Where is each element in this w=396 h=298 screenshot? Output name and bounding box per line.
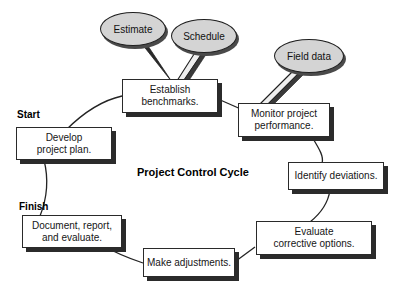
node-establish-benchmarks-label: Establish benchmarks. — [135, 84, 204, 108]
node-develop-project-plan-line1: Develop — [34, 132, 94, 144]
node-evaluate-corrective-options-line1: Evaluate — [270, 226, 357, 238]
node-evaluate-corrective-options-label: Evaluate corrective options. — [267, 226, 360, 250]
bubble-schedule-label: Schedule — [183, 31, 225, 42]
node-evaluate-corrective-options[interactable]: Evaluate corrective options. — [256, 221, 372, 255]
node-monitor-project-performance[interactable]: Monitor project performance. — [238, 103, 330, 137]
node-monitor-project-performance-label: Monitor project performance. — [245, 108, 323, 132]
node-document-report-evaluate-line2: and evaluate. — [29, 232, 115, 244]
node-establish-benchmarks[interactable]: Establish benchmarks. — [122, 79, 218, 113]
node-develop-project-plan[interactable]: Develop project plan. — [16, 127, 112, 160]
connector-develop-to-establish — [66, 96, 122, 130]
node-make-adjustments-label: Make adjustments. — [144, 257, 234, 269]
node-monitor-project-performance-line2: performance. — [248, 120, 320, 132]
node-evaluate-corrective-options-line2: corrective options. — [270, 238, 357, 250]
bubble-schedule[interactable]: Schedule — [171, 19, 237, 53]
finish-label: Finish — [19, 201, 48, 212]
node-document-report-evaluate-line1: Document, report, — [29, 220, 115, 232]
tail-estimate — [142, 44, 172, 82]
connector-identify-to-evaluate — [310, 190, 330, 222]
node-identify-deviations-label: Identify deviations. — [292, 170, 381, 182]
node-document-report-evaluate[interactable]: Document, report, and evaluate. — [22, 215, 122, 248]
bubble-estimate[interactable]: Estimate — [100, 12, 166, 46]
connector-evaluate-to-make — [236, 247, 255, 261]
connector-monitor-to-identify — [312, 137, 323, 163]
node-establish-benchmarks-line1: Establish — [138, 84, 201, 96]
bubble-field-data[interactable]: Field data — [274, 39, 344, 73]
node-develop-project-plan-label: Develop project plan. — [31, 132, 97, 156]
node-monitor-project-performance-line1: Monitor project — [248, 108, 320, 120]
connector-make-to-document — [104, 246, 143, 263]
node-make-adjustments[interactable]: Make adjustments. — [143, 248, 235, 277]
node-identify-deviations[interactable]: Identify deviations. — [288, 162, 384, 190]
bubble-field-data-label: Field data — [287, 51, 331, 62]
node-establish-benchmarks-line2: benchmarks. — [138, 96, 201, 108]
bubble-estimate-label: Estimate — [114, 24, 153, 35]
diagram-title: Project Control Cycle — [137, 166, 249, 178]
node-develop-project-plan-line2: project plan. — [34, 144, 94, 156]
node-document-report-evaluate-label: Document, report, and evaluate. — [26, 220, 118, 244]
project-control-cycle-diagram: Estimate Schedule Field data Establish b… — [0, 0, 396, 298]
start-label: Start — [17, 109, 40, 120]
